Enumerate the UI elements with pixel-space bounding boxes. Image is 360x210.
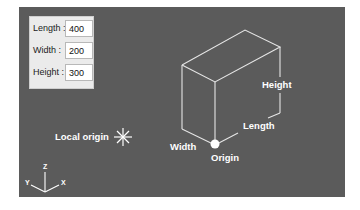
origin-label: Origin bbox=[211, 152, 239, 163]
local-origin-icon bbox=[114, 128, 132, 146]
length-row: Length : 400 bbox=[30, 20, 95, 38]
length-input[interactable]: 400 bbox=[65, 20, 93, 37]
width-input[interactable]: 200 bbox=[65, 42, 93, 59]
height-dimension-label: Height bbox=[262, 79, 292, 90]
box-edge-bottom-right-b bbox=[268, 113, 280, 118]
width-row: Width : 200 bbox=[30, 42, 95, 60]
length-label: Length : bbox=[33, 23, 66, 33]
width-dimension-label: Width bbox=[170, 141, 196, 152]
length-dimension-label: Length bbox=[243, 120, 275, 131]
width-label: Width : bbox=[33, 45, 61, 55]
origin-dot bbox=[211, 140, 220, 149]
height-input[interactable]: 300 bbox=[65, 64, 93, 81]
box-top-face bbox=[182, 30, 280, 82]
dimension-panel: Length : 400 Width : 200 Height : 300 bbox=[29, 16, 94, 89]
height-label: Height : bbox=[33, 67, 64, 77]
axis-x-label: X bbox=[61, 179, 66, 186]
height-row: Height : 300 bbox=[30, 64, 95, 82]
axis-triad-icon bbox=[31, 172, 59, 192]
axis-z-label: Z bbox=[43, 163, 47, 170]
local-origin-label: Local origin bbox=[55, 131, 109, 142]
axis-y-label: Y bbox=[25, 179, 30, 186]
